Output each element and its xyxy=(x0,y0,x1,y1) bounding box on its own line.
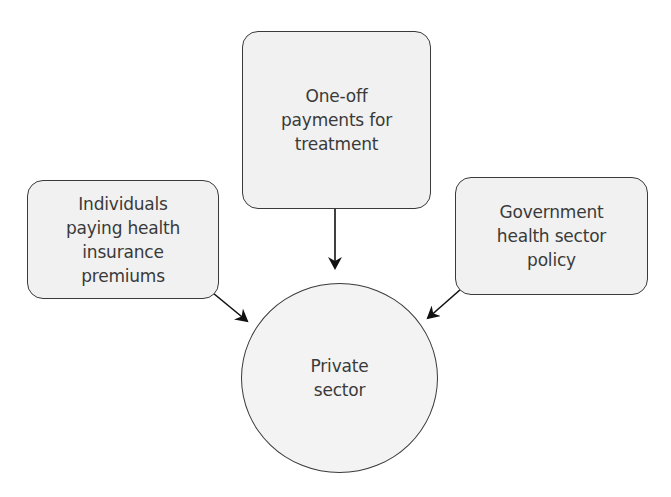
node-government-policy: Government health sector policy xyxy=(455,177,648,295)
node-label: Individuals paying health insurance prem… xyxy=(66,192,180,288)
arrow-right-to-center xyxy=(428,289,461,318)
arrow-left-to-center xyxy=(213,293,247,321)
diagram: One-off payments for treatment Individua… xyxy=(0,0,671,497)
node-label: One-off payments for treatment xyxy=(281,84,392,156)
node-individuals-insurance: Individuals paying health insurance prem… xyxy=(27,180,219,299)
node-label: Government health sector policy xyxy=(497,200,606,272)
node-one-off-payments: One-off payments for treatment xyxy=(242,31,431,209)
node-label: Private sector xyxy=(311,354,369,402)
node-private-sector: Private sector xyxy=(241,283,438,473)
